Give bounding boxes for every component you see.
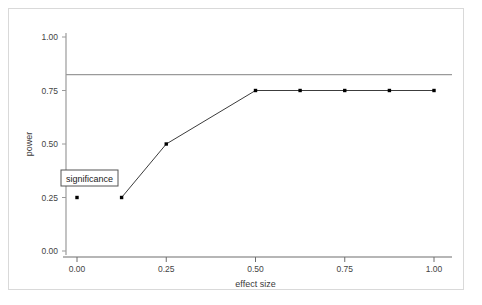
- data-point-0.75: [343, 89, 346, 92]
- x-axis-ticks: [77, 257, 434, 262]
- x-tick-label-0.75: 0.75: [336, 264, 353, 274]
- data-point-0.00-isolated: [75, 196, 78, 199]
- y-tick-label-0.25: 0.25: [41, 193, 58, 203]
- power-curve-line: [122, 91, 434, 198]
- significance-annotation: significance: [61, 170, 118, 186]
- x-tick-label-0.25: 0.25: [158, 264, 175, 274]
- y-tick-label-1.00: 1.00: [41, 32, 58, 42]
- data-point-1.00: [432, 89, 435, 92]
- significance-annotation-label: significance: [66, 174, 113, 184]
- x-tick-label-1.00: 1.00: [426, 264, 443, 274]
- y-tick-label-0.50: 0.50: [41, 139, 58, 149]
- y-tick-label-0.00: 0.00: [41, 246, 58, 256]
- power-curve-markers: [120, 89, 436, 199]
- data-point-0.875: [388, 89, 391, 92]
- y-axis-title: power: [24, 132, 34, 157]
- x-axis-title: effect size: [235, 279, 275, 289]
- x-tick-label-0.50: 0.50: [247, 264, 264, 274]
- data-point-0.50: [254, 89, 257, 92]
- power-plot: 1.00 0.75 0.50 0.25 0.00 0.00 0.25 0.50 …: [0, 0, 482, 305]
- x-tick-label-0.00: 0.00: [69, 264, 86, 274]
- y-tick-label-0.75: 0.75: [41, 86, 58, 96]
- figure-canvas: 1.00 0.75 0.50 0.25 0.00 0.00 0.25 0.50 …: [0, 0, 482, 305]
- data-point-0.625: [298, 89, 301, 92]
- data-point-0.25: [165, 142, 168, 145]
- data-point-0.125: [120, 196, 123, 199]
